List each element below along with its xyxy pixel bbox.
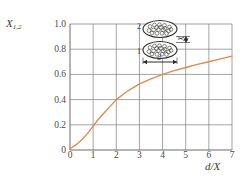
inset-dimension-x: X [177, 36, 186, 41]
chart-figure: X1,2 d/X 00.20.40.60.81.0 01234567 2 1 X… [0, 0, 244, 180]
inset-dimension-d: d [157, 53, 161, 62]
inset-label-2: 2 [137, 22, 141, 31]
inset-label-1: 1 [137, 47, 141, 56]
plot-area [0, 0, 244, 180]
